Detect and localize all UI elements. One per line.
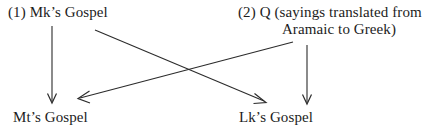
edge-mk-to-mt [48,26,57,103]
diagram-canvas: (1) Mk’s Gospel (2) Q (sayings translate… [0,0,438,131]
arrow-layer [0,0,438,131]
edge-q-to-lk [303,45,312,104]
edge-q-to-mt [78,42,293,103]
edge-mk-to-lk [95,30,266,104]
